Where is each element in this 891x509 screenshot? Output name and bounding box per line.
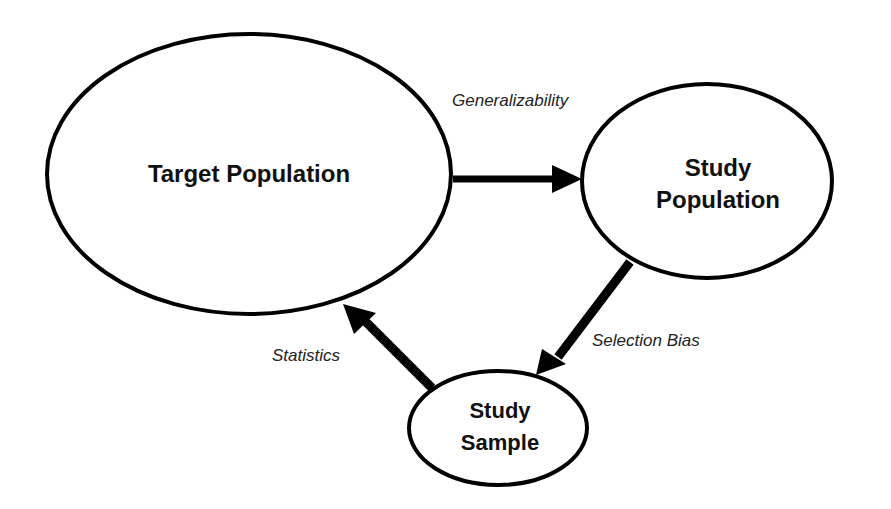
- node-study-population-line2: Population: [656, 186, 780, 213]
- edge-selection-bias: Selection Bias: [536, 262, 700, 375]
- node-study-population: Study Population: [582, 84, 832, 278]
- edge-generalizability-label: Generalizability: [452, 91, 570, 110]
- node-study-sample-line1: Study: [469, 398, 531, 423]
- node-study-population-line1: Study: [685, 154, 752, 181]
- arrow-up-left-icon: [362, 318, 432, 388]
- node-target-population: Target Population: [47, 34, 451, 314]
- node-study-sample-line2: Sample: [461, 430, 539, 455]
- edge-generalizability: Generalizability: [452, 91, 582, 193]
- edge-statistics-label: Statistics: [272, 346, 341, 365]
- node-study-sample: Study Sample: [409, 371, 587, 485]
- node-target-population-label: Target Population: [148, 160, 350, 187]
- edge-statistics: Statistics: [272, 304, 432, 388]
- arrowhead-icon: [552, 165, 582, 193]
- edge-selection-bias-label: Selection Bias: [592, 331, 700, 350]
- diagram-canvas: Target Population Study Population Study…: [0, 0, 891, 509]
